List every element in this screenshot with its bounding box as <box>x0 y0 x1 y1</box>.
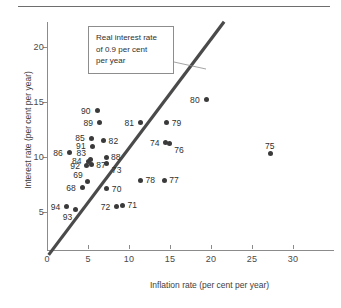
y-tick-label: 10 <box>34 152 44 162</box>
x-tick <box>170 245 171 249</box>
data-point <box>85 179 90 184</box>
chart-page: 051015202530 5101520 9493866869928483879… <box>0 0 341 308</box>
data-point <box>73 207 78 212</box>
data-point-label: 70 <box>112 184 122 194</box>
data-point <box>138 178 143 183</box>
x-tick <box>211 245 212 249</box>
y-axis-line <box>47 22 48 251</box>
data-point-label: 74 <box>150 138 160 148</box>
x-tick <box>88 245 89 249</box>
annotation-callout: Real interest rate of 0.9 per cent per y… <box>88 26 174 74</box>
data-point <box>89 136 94 141</box>
top-divider <box>18 6 330 7</box>
data-point <box>120 203 125 208</box>
data-point <box>80 185 85 190</box>
data-point <box>138 120 143 125</box>
data-point-label: 71 <box>127 200 137 210</box>
x-tick-label: 25 <box>247 254 257 264</box>
data-point-label: 80 <box>190 95 200 105</box>
y-axis-title: Interest rate (per cent per year) <box>23 50 33 210</box>
data-point-label: 89 <box>83 118 93 128</box>
data-point <box>162 178 167 183</box>
data-point-label: 93 <box>63 212 73 222</box>
data-point <box>104 186 109 191</box>
data-point <box>268 151 273 156</box>
data-point <box>95 108 100 113</box>
x-tick-label: 30 <box>288 254 298 264</box>
x-tick-label: 5 <box>85 254 90 264</box>
x-tick <box>252 245 253 249</box>
data-point <box>204 97 209 102</box>
data-point <box>64 204 69 209</box>
x-tick <box>293 245 294 249</box>
annotation-line-3: per year <box>96 55 167 67</box>
data-point-label: 78 <box>145 175 155 185</box>
x-axis-line <box>47 250 334 251</box>
annotation-line-2: of 0.9 per cent <box>96 44 167 56</box>
annotation-line-1: Real interest rate <box>96 32 167 44</box>
data-point-label: 86 <box>53 148 63 158</box>
x-tick-label: 0 <box>44 254 49 264</box>
data-point-label: 77 <box>169 175 179 185</box>
data-point <box>167 141 172 146</box>
data-point <box>104 155 109 160</box>
x-tick-label: 10 <box>124 254 134 264</box>
data-point-label: 72 <box>101 202 111 212</box>
data-point <box>101 138 106 143</box>
x-tick-label: 15 <box>165 254 175 264</box>
data-point <box>90 144 95 149</box>
data-point <box>164 120 169 125</box>
data-point <box>67 150 72 155</box>
data-point-label: 75 <box>265 141 275 151</box>
data-point <box>89 162 94 167</box>
data-point-label: 90 <box>81 106 91 116</box>
data-point <box>97 120 102 125</box>
data-point-label: 88 <box>111 152 121 162</box>
x-tick <box>129 245 130 249</box>
data-point <box>114 204 119 209</box>
data-point-label: 79 <box>172 118 182 128</box>
y-tick-label: 15 <box>34 97 44 107</box>
data-point <box>104 161 109 166</box>
data-point-label: 85 <box>75 133 85 143</box>
data-point-label: 82 <box>109 136 119 146</box>
data-point-label: 68 <box>66 183 76 193</box>
data-point-label: 81 <box>124 118 134 128</box>
data-point <box>88 157 93 162</box>
data-point-label: 73 <box>112 165 122 175</box>
x-axis-title: Inflation rate (per cent per year) <box>150 280 269 290</box>
data-point-label: 76 <box>174 145 184 155</box>
data-point-label: 69 <box>73 170 83 180</box>
data-point-label: 94 <box>51 202 61 212</box>
y-tick-label: 5 <box>39 207 44 217</box>
x-tick-label: 20 <box>206 254 216 264</box>
y-tick-label: 20 <box>34 42 44 52</box>
